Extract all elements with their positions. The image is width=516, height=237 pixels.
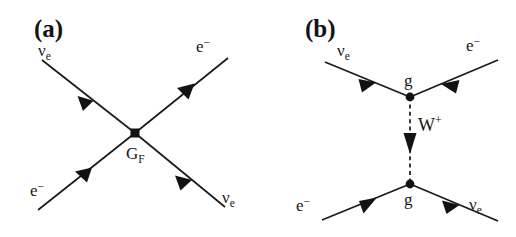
particle-superscript: − xyxy=(304,195,311,207)
panel-b-label: (b) xyxy=(305,15,336,43)
boson-base: W xyxy=(418,115,435,135)
panel-a-label-outgoing-neutrino-lower-right: νe xyxy=(222,188,235,209)
panel-b-leg-incoming-neutrino-upper-left xyxy=(325,62,410,97)
panel-b-lower-coupling-label: g xyxy=(404,190,413,209)
particle-subscript: e xyxy=(230,197,235,209)
particle-base: e xyxy=(296,196,304,215)
boson-superscript: + xyxy=(435,113,442,127)
particle-base: e xyxy=(30,181,38,200)
panel-a: (a) νe e− e− νe GF xyxy=(30,15,235,210)
particle-superscript: − xyxy=(204,36,211,48)
panel-b: (b) νe e− W+ e− νe g xyxy=(296,15,498,221)
panel-b-lower-vertex-marker xyxy=(406,180,415,189)
feynman-diagram-figure: (a) νe e− e− νe GF (b) xyxy=(0,0,516,237)
panel-a-label: (a) xyxy=(34,15,63,43)
particle-base: e xyxy=(466,36,474,55)
panel-a-label-outgoing-electron-upper-right: e− xyxy=(196,36,210,56)
panel-b-w-boson-label: W+ xyxy=(418,113,442,135)
particle-subscript: e xyxy=(46,50,51,62)
panel-a-leg-incoming-neutrino-upper-left xyxy=(42,60,135,133)
panel-b-arrow-outgoing-neutrino-lower-right xyxy=(442,201,460,215)
coupling-base: G xyxy=(126,144,138,163)
panel-b-upper-vertex-marker xyxy=(406,93,415,102)
panel-b-leg-outgoing-neutrino-lower-right xyxy=(410,184,498,221)
particle-subscript: e xyxy=(345,50,350,62)
panel-a-fermi-coupling-label: GF xyxy=(126,144,145,165)
particle-superscript: − xyxy=(38,180,45,192)
panel-b-upper-coupling-label: g xyxy=(404,71,413,90)
panel-b-arrow-w-boson-downward xyxy=(404,133,417,154)
panel-a-label-incoming-electron-lower-left: e− xyxy=(30,180,44,200)
panel-b-label-outgoing-electron-upper-right: e− xyxy=(466,35,480,55)
panel-b-label-incoming-neutrino-upper-left: νe xyxy=(337,41,350,62)
diagram-canvas: (a) νe e− e− νe GF (b) xyxy=(0,0,516,237)
panel-b-arrow-incoming-electron-lower-left xyxy=(359,198,377,214)
panel-a-leg-outgoing-electron-upper-right xyxy=(135,58,228,133)
panel-a-leg-outgoing-neutrino-lower-right xyxy=(135,133,225,207)
panel-b-label-outgoing-neutrino-lower-right: νe xyxy=(469,195,482,216)
panel-b-label-incoming-electron-lower-left: e− xyxy=(296,195,310,215)
particle-base: e xyxy=(196,37,204,56)
panel-a-label-incoming-neutrino-upper-left: νe xyxy=(38,41,51,62)
panel-a-arrow-incoming-electron-lower-left xyxy=(75,168,92,183)
panel-a-vertex-marker xyxy=(131,129,140,138)
coupling-subscript: F xyxy=(138,153,144,165)
particle-subscript: e xyxy=(477,204,482,216)
particle-superscript: − xyxy=(474,35,481,47)
